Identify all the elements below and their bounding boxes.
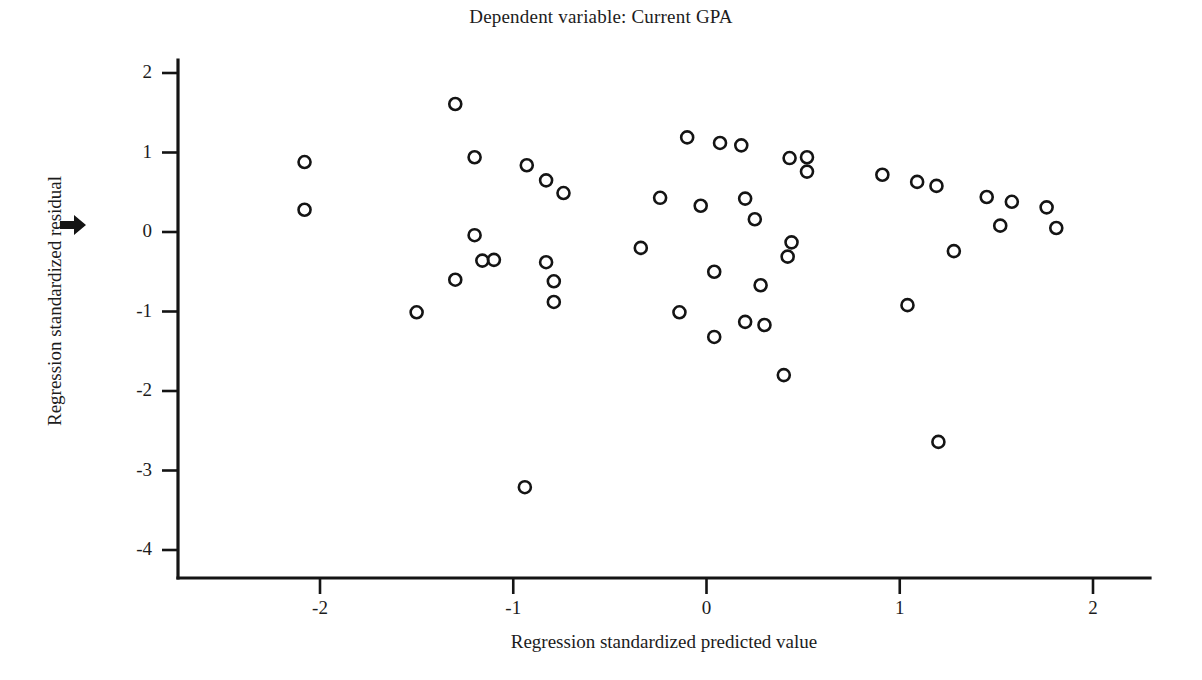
data-point: [739, 316, 751, 328]
data-point: [786, 236, 798, 248]
data-point: [758, 319, 770, 331]
data-point: [1006, 196, 1018, 208]
data-point: [299, 204, 311, 216]
data-point: [714, 137, 726, 149]
data-point: [635, 242, 647, 254]
x-tick-label: 1: [880, 597, 920, 619]
data-point: [548, 296, 560, 308]
x-tick-label: -2: [300, 597, 340, 619]
plot-canvas: [0, 0, 1202, 680]
data-point: [557, 187, 569, 199]
data-point: [695, 200, 707, 212]
data-point: [739, 193, 751, 205]
y-tick-label: -2: [112, 379, 152, 401]
data-point: [782, 251, 794, 263]
data-point: [654, 192, 666, 204]
data-point: [911, 176, 923, 188]
data-point: [930, 180, 942, 192]
x-tick-label: -1: [493, 597, 533, 619]
data-point: [755, 279, 767, 291]
data-point: [784, 152, 796, 164]
data-point: [749, 213, 761, 225]
data-point: [299, 156, 311, 168]
data-point: [876, 169, 888, 181]
data-point: [469, 229, 481, 241]
data-point: [735, 139, 747, 151]
data-point: [981, 191, 993, 203]
data-point: [801, 151, 813, 163]
data-point: [449, 98, 461, 110]
data-point: [778, 369, 790, 381]
data-point: [901, 299, 913, 311]
data-point: [469, 151, 481, 163]
data-point: [708, 266, 720, 278]
data-point: [548, 275, 560, 287]
axis-ticks: [162, 73, 1093, 594]
y-tick-label: 2: [112, 61, 152, 83]
plot-axes: [178, 60, 1150, 578]
data-point: [681, 131, 693, 143]
data-point: [476, 255, 488, 267]
data-point: [708, 331, 720, 343]
data-point: [540, 256, 552, 268]
data-point: [994, 220, 1006, 232]
data-point: [521, 159, 533, 171]
y-tick-label: -1: [112, 300, 152, 322]
data-point: [1041, 201, 1053, 213]
scatter-plot-figure: Dependent variable: Current GPA Regressi…: [0, 0, 1202, 680]
data-point: [1050, 222, 1062, 234]
data-point: [488, 254, 500, 266]
x-tick-label: 0: [687, 597, 727, 619]
x-tick-label: 2: [1073, 597, 1113, 619]
data-point: [411, 306, 423, 318]
data-points-group: [299, 98, 1063, 493]
y-tick-label: -4: [112, 538, 152, 560]
data-point: [948, 245, 960, 257]
data-point: [449, 274, 461, 286]
data-point: [673, 306, 685, 318]
data-point: [519, 481, 531, 493]
y-tick-label: 0: [112, 220, 152, 242]
y-tick-label: 1: [112, 141, 152, 163]
y-tick-label: -3: [112, 459, 152, 481]
data-point: [801, 166, 813, 178]
data-point: [932, 436, 944, 448]
data-point: [540, 174, 552, 186]
